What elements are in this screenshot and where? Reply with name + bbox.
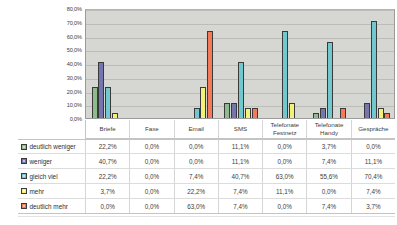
- value-cell: 0,0%: [174, 140, 218, 153]
- bar-group: [175, 10, 219, 118]
- bar-group: [307, 10, 351, 118]
- bar[interactable]: [98, 62, 104, 118]
- legend-entry-5[interactable]: deutlich mehr: [18, 199, 85, 213]
- bar-group: [130, 10, 174, 118]
- legend-swatch-icon: [21, 188, 27, 194]
- value-cell: 0,0%: [129, 154, 173, 168]
- value-cell: 11,1%: [351, 154, 395, 168]
- plot-wrap: [85, 9, 395, 119]
- value-cell: 0,0%: [129, 184, 173, 198]
- value-cell: 63,0%: [262, 169, 306, 183]
- value-cell: 7,4%: [351, 184, 395, 198]
- bar[interactable]: [105, 87, 111, 118]
- value-cell: 40,7%: [218, 169, 262, 183]
- value-cell: 11,1%: [262, 184, 306, 198]
- value-cell: 40,7%: [85, 154, 129, 168]
- category-label-2: Faxe: [129, 120, 173, 138]
- value-cell: 7,4%: [306, 199, 350, 213]
- bar[interactable]: [313, 113, 319, 118]
- value-cell: 11,1%: [218, 154, 262, 168]
- value-cell: 7,4%: [218, 184, 262, 198]
- category-label-3: Email: [174, 120, 218, 138]
- legend-label: mehr: [30, 188, 45, 195]
- bar[interactable]: [252, 108, 258, 118]
- y-axis-tick-label: 0,0%: [70, 116, 82, 122]
- table-row: weniger40,7%0,0%0,0%11,1%0,0%7,4%11,1%: [18, 154, 395, 169]
- bar[interactable]: [245, 108, 251, 118]
- y-axis-tick-label: 40,0%: [67, 61, 82, 67]
- bar[interactable]: [207, 31, 213, 118]
- legend-swatch-icon: [21, 158, 27, 164]
- value-cell: 3,7%: [85, 184, 129, 198]
- category-label-7: Gespräche: [351, 120, 395, 138]
- value-cell: 3,7%: [351, 199, 395, 213]
- bar[interactable]: [289, 103, 295, 118]
- y-axis-tick-label: 20,0%: [67, 89, 82, 95]
- bar-group: [219, 10, 263, 118]
- value-cell: 22,2%: [174, 184, 218, 198]
- bar[interactable]: [200, 87, 206, 118]
- y-axis-tick-label: 80,0%: [67, 6, 82, 12]
- bar[interactable]: [92, 87, 98, 118]
- y-axis: 80,0%70,0%60,0%50,0%40,0%30,0%20,0%10,0%…: [48, 9, 84, 119]
- bar[interactable]: [320, 108, 326, 118]
- plot-area: [85, 9, 395, 119]
- bar-group: [263, 10, 307, 118]
- value-cell: 0,0%: [174, 154, 218, 168]
- category-header-row: BriefeFaxeEmailSMSTelefonate FestnetzTel…: [85, 120, 395, 139]
- value-cell: 0,0%: [129, 169, 173, 183]
- legend-entry-4[interactable]: mehr: [18, 184, 85, 198]
- category-label-6: Telefonate Handy: [306, 120, 350, 138]
- table-row: mehr3,7%0,0%22,2%7,4%11,1%0,0%7,4%: [18, 184, 395, 199]
- bar[interactable]: [340, 108, 346, 118]
- table-row: gleich viel22,2%0,0%7,4%40,7%63,0%55,6%7…: [18, 169, 395, 184]
- table-row: deutlich weniger22,2%0,0%0,0%11,1%0,0%3,…: [18, 139, 395, 154]
- value-cell: 0,0%: [351, 140, 395, 153]
- y-axis-tick-label: 60,0%: [67, 34, 82, 40]
- bar[interactable]: [112, 113, 118, 118]
- bar[interactable]: [282, 31, 288, 118]
- value-cell: 7,4%: [174, 169, 218, 183]
- value-cell: 0,0%: [129, 199, 173, 213]
- legend-entry-1[interactable]: deutlich weniger: [18, 140, 85, 153]
- y-axis-tick-label: 50,0%: [67, 47, 82, 53]
- data-table: deutlich weniger22,2%0,0%0,0%11,1%0,0%3,…: [18, 139, 395, 214]
- value-cell: 11,1%: [218, 140, 262, 153]
- value-cell: 0,0%: [129, 140, 173, 153]
- chart-title: [0, 0, 397, 5]
- value-cell: 3,7%: [306, 140, 350, 153]
- value-cell: 0,0%: [262, 154, 306, 168]
- value-cell: 0,0%: [85, 199, 129, 213]
- legend-entry-2[interactable]: weniger: [18, 154, 85, 168]
- legend-swatch-icon: [21, 144, 27, 150]
- legend-label: weniger: [30, 158, 52, 165]
- bar[interactable]: [231, 103, 237, 118]
- category-label-4: SMS: [218, 120, 262, 138]
- bar[interactable]: [194, 108, 200, 118]
- value-cell: 63,0%: [174, 199, 218, 213]
- value-cell: 70,4%: [351, 169, 395, 183]
- bar[interactable]: [378, 108, 384, 118]
- table-row: deutlich mehr0,0%0,0%63,0%7,4%0,0%7,4%3,…: [18, 199, 395, 214]
- value-cell: 0,0%: [262, 140, 306, 153]
- legend-swatch-icon: [21, 173, 27, 179]
- bar[interactable]: [364, 103, 370, 118]
- y-axis-tick-label: 70,0%: [67, 20, 82, 26]
- value-cell: 0,0%: [306, 184, 350, 198]
- bar[interactable]: [224, 103, 230, 118]
- legend-entry-3[interactable]: gleich viel: [18, 169, 85, 183]
- value-cell: 22,2%: [85, 169, 129, 183]
- legend-label: deutlich weniger: [30, 143, 76, 150]
- value-cell: 22,2%: [85, 140, 129, 153]
- bar-group: [352, 10, 395, 118]
- value-cell: 7,4%: [306, 154, 350, 168]
- bar[interactable]: [371, 21, 377, 118]
- chart-container: 80,0%70,0%60,0%50,0%40,0%30,0%20,0%10,0%…: [0, 0, 397, 225]
- category-label-5: Telefonate Festnetz: [262, 120, 306, 138]
- category-label-1: Briefe: [85, 120, 129, 138]
- value-cell: 7,4%: [218, 199, 262, 213]
- bar[interactable]: [327, 42, 333, 118]
- y-axis-tick-label: 30,0%: [67, 75, 82, 81]
- bar[interactable]: [384, 113, 390, 118]
- bar[interactable]: [238, 62, 244, 118]
